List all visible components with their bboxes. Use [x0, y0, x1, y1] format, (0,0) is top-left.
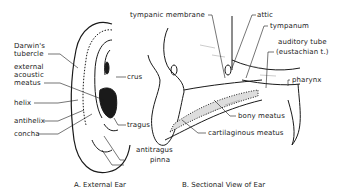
label-pharynx: pharynx — [292, 76, 321, 84]
ear-anatomy-diagram: Darwin's tubercle external acoustic meat… — [0, 0, 338, 193]
label-helix: helix — [14, 99, 31, 107]
caption-panel-a: A. External Ear — [74, 181, 126, 189]
label-external-acoustic-meatus-line2: acoustic — [14, 71, 44, 79]
label-attic: attic — [257, 11, 273, 19]
label-tympanum: tympanum — [270, 22, 309, 30]
label-antihelix: antihelix — [14, 117, 45, 125]
label-darwins-tubercle-line2: tubercle — [14, 50, 44, 58]
ossicle-2 — [225, 65, 231, 75]
label-darwins-tubercle-line1: Darwin's — [14, 42, 45, 50]
label-auditory-tube-line2: (eustachian t.) — [276, 48, 329, 56]
label-crus: crus — [127, 73, 142, 81]
crus-ear — [105, 62, 109, 74]
outer-ear-section — [148, 28, 184, 145]
label-concha: concha — [14, 130, 40, 138]
label-external-acoustic-meatus-line1: external — [14, 63, 44, 71]
tube-top — [232, 60, 300, 70]
label-external-acoustic-meatus-line3: meatus — [14, 79, 41, 87]
caption-panel-b: B. Sectional View of Ear — [182, 181, 265, 189]
label-bony-meatus: bony meatus — [238, 112, 285, 120]
label-cartilaginous-meatus: cartilaginous meatus — [208, 129, 284, 137]
tragus-shape — [104, 124, 118, 131]
right-wall — [288, 100, 294, 145]
label-tympanic-membrane: tympanic membrane — [130, 11, 205, 19]
label-pinna: pinna — [150, 156, 170, 164]
label-antitragus: antitragus — [136, 146, 173, 154]
pharynx-wall — [292, 84, 300, 145]
label-auditory-tube-line1: auditory tube — [278, 38, 327, 46]
concha-cavity — [99, 88, 116, 118]
label-tragus: tragus — [127, 121, 150, 129]
